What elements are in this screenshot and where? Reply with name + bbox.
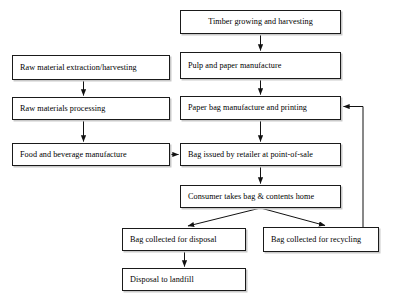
- node-label: Raw materials processing: [13, 104, 169, 113]
- node-disposal-to-landfill[interactable]: Disposal to landfill: [122, 268, 246, 291]
- node-raw-materials-processing[interactable]: Raw materials processing: [12, 97, 170, 120]
- node-label: Consumer takes bag & contents home: [181, 192, 340, 201]
- node-timber-growing[interactable]: Timber growing and harvesting: [180, 10, 341, 34]
- node-label: Food and beverage manufacture: [13, 150, 169, 159]
- node-label: Pulp and paper manufacture: [181, 61, 340, 70]
- connector-recycling-to-paperbag: [344, 107, 364, 228]
- connector-consumer-to-recycling: [261, 208, 326, 226]
- node-bag-issued-by-retailer[interactable]: Bag issued by retailer at point-of-sale: [180, 143, 341, 166]
- node-bag-collected-for-disposal[interactable]: Bag collected for disposal: [122, 228, 246, 251]
- node-label: Paper bag manufacture and printing: [181, 103, 340, 112]
- node-label: Bag issued by retailer at point-of-sale: [181, 150, 340, 159]
- node-paper-bag-manufacture[interactable]: Paper bag manufacture and printing: [180, 96, 341, 120]
- node-raw-material-extraction[interactable]: Raw material extraction/harvesting: [12, 55, 170, 80]
- node-label: Bag collected for recycling: [264, 235, 378, 244]
- node-food-beverage-manufacture[interactable]: Food and beverage manufacture: [12, 143, 170, 166]
- node-label: Timber growing and harvesting: [181, 17, 340, 26]
- node-consumer-takes-bag[interactable]: Consumer takes bag & contents home: [180, 185, 341, 208]
- node-label: Bag collected for disposal: [123, 235, 245, 244]
- node-pulp-paper-manufacture[interactable]: Pulp and paper manufacture: [180, 52, 341, 79]
- connector-consumer-to-disposal: [188, 208, 261, 226]
- flowchart-diagram: Timber growing and harvesting Raw materi…: [0, 0, 394, 301]
- node-label: Raw material extraction/harvesting: [13, 63, 169, 72]
- node-bag-collected-for-recycling[interactable]: Bag collected for recycling: [263, 227, 379, 252]
- node-label: Disposal to landfill: [123, 275, 245, 284]
